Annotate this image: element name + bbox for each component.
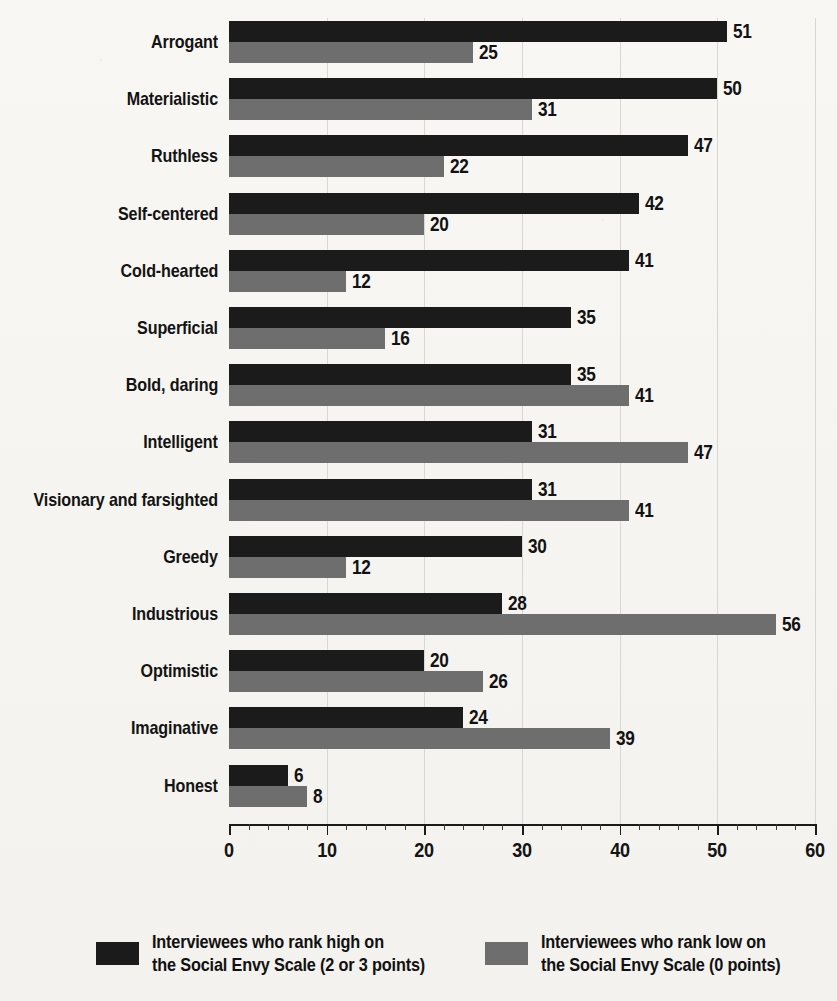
- bar-group: Honest68: [0, 765, 837, 807]
- bar-value-label: 31: [538, 421, 559, 442]
- bar-group: Self-centered4220: [0, 193, 837, 235]
- x-tick-label: 10: [315, 838, 338, 862]
- bar-value-label: 47: [694, 442, 715, 463]
- bar-value-label: 39: [616, 728, 637, 749]
- category-label: Arrogant: [0, 33, 218, 52]
- x-tick-minor: [600, 824, 601, 830]
- bar-low: [229, 442, 688, 463]
- x-tick-minor: [483, 824, 484, 830]
- x-tick-minor: [581, 824, 582, 830]
- x-tick-major: [522, 824, 524, 835]
- bar-value-label: 30: [528, 536, 549, 557]
- bar-low: [229, 42, 473, 63]
- x-tick-minor: [385, 824, 386, 830]
- category-label: Bold, daring: [0, 376, 218, 395]
- bar-group: Cold-hearted4112: [0, 250, 837, 292]
- x-tick-minor: [288, 824, 289, 830]
- category-label: Ruthless: [0, 147, 218, 166]
- grouped-bar-chart: Arrogant5125Materialistic5031Ruthless472…: [0, 0, 837, 870]
- bar-value-label: 26: [489, 671, 510, 692]
- bar-high: [229, 364, 571, 385]
- x-tick-label: 60: [804, 838, 827, 862]
- bar-value-label: 28: [508, 593, 529, 614]
- x-tick-minor: [561, 824, 562, 830]
- category-label: Imaginative: [0, 719, 218, 738]
- bar-low: [229, 328, 385, 349]
- bar-high: [229, 78, 717, 99]
- bar-group: Visionary and farsighted3141: [0, 479, 837, 521]
- bar-high: [229, 765, 288, 786]
- bar-low: [229, 214, 424, 235]
- bar-high: [229, 593, 502, 614]
- category-label: Honest: [0, 777, 218, 796]
- bar-value-label: 20: [430, 650, 451, 671]
- bar-value-label: 35: [577, 307, 598, 328]
- bar-low: [229, 385, 629, 406]
- category-label: Self-centered: [0, 205, 218, 224]
- bar-high: [229, 21, 727, 42]
- bar-value-label: 24: [469, 707, 490, 728]
- category-label: Cold-hearted: [0, 262, 218, 281]
- bar-group: Superficial3516: [0, 307, 837, 349]
- x-tick-major: [717, 824, 719, 835]
- category-label: Industrious: [0, 605, 218, 624]
- x-tick-major: [815, 824, 817, 835]
- bar-value-label: 12: [352, 557, 373, 578]
- bar-high: [229, 536, 522, 557]
- x-tick-minor: [542, 824, 543, 830]
- bar-value-label: 41: [635, 500, 656, 521]
- x-tick-minor: [346, 824, 347, 830]
- bar-high: [229, 479, 532, 500]
- bar-group: Imaginative2439: [0, 707, 837, 749]
- x-tick-minor: [737, 824, 738, 830]
- x-tick-minor: [502, 824, 503, 830]
- bar-low: [229, 728, 610, 749]
- bar-group: Bold, daring3541: [0, 364, 837, 406]
- bar-value-label: 51: [733, 21, 754, 42]
- bar-value-label: 31: [538, 479, 559, 500]
- x-tick-major: [327, 824, 329, 835]
- bar-high: [229, 193, 639, 214]
- bar-value-label: 22: [450, 156, 471, 177]
- bar-high: [229, 307, 571, 328]
- bar-value-label: 16: [391, 328, 412, 349]
- bar-value-label: 42: [645, 193, 666, 214]
- bar-low: [229, 500, 629, 521]
- bar-group: Materialistic5031: [0, 78, 837, 120]
- bar-value-label: 41: [635, 250, 656, 271]
- legend-swatch-low: [485, 942, 528, 965]
- x-tick-label: 50: [706, 838, 729, 862]
- x-tick-minor: [463, 824, 464, 830]
- x-tick-major: [620, 824, 622, 835]
- category-label: Optimistic: [0, 662, 218, 681]
- legend-label-high-line2: the Social Envy Scale (2 or 3 points): [152, 953, 425, 976]
- bar-value-label: 25: [479, 42, 500, 63]
- x-tick-major: [229, 824, 231, 835]
- bar-group: Arrogant5125: [0, 21, 837, 63]
- bar-value-label: 20: [430, 214, 451, 235]
- x-tick-minor: [639, 824, 640, 830]
- bar-high: [229, 421, 532, 442]
- x-tick-minor: [366, 824, 367, 830]
- bar-high: [229, 650, 424, 671]
- bar-value-label: 31: [538, 99, 559, 120]
- bar-low: [229, 557, 346, 578]
- x-tick-minor: [678, 824, 679, 830]
- x-tick-label: 40: [608, 838, 631, 862]
- bar-group: Greedy3012: [0, 536, 837, 578]
- bar-group: Optimistic2026: [0, 650, 837, 692]
- bar-high: [229, 250, 629, 271]
- category-label: Superficial: [0, 319, 218, 338]
- category-label: Greedy: [0, 548, 218, 567]
- bar-low: [229, 99, 532, 120]
- bar-value-label: 12: [352, 271, 373, 292]
- legend-label-low-line2: the Social Envy Scale (0 points): [541, 953, 781, 976]
- x-tick-minor: [756, 824, 757, 830]
- bar-low: [229, 671, 483, 692]
- x-tick-minor: [698, 824, 699, 830]
- x-tick-minor: [776, 824, 777, 830]
- x-tick-label: 0: [223, 838, 234, 862]
- bar-high: [229, 707, 463, 728]
- category-label: Materialistic: [0, 90, 218, 109]
- bar-low: [229, 786, 307, 807]
